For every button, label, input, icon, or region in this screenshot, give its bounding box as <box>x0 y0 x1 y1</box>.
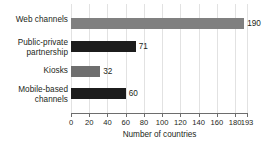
x-tick-label-180: 180 <box>229 118 242 127</box>
x-axis-line <box>71 113 248 114</box>
x-tick-160 <box>217 113 218 117</box>
x-tick-label-120: 120 <box>174 118 187 127</box>
x-tick-100 <box>162 113 163 117</box>
bar-chart: Web channels Public-private partnership … <box>0 0 265 151</box>
bar-value-label: 60 <box>129 88 138 99</box>
bar <box>71 41 136 52</box>
x-tick-label-40: 40 <box>103 118 111 127</box>
category-label-web-channels: Web channels <box>16 15 68 25</box>
bar <box>71 66 100 77</box>
x-tick-0 <box>71 113 72 117</box>
x-tick-label-100: 100 <box>156 118 169 127</box>
x-tick-label-0: 0 <box>69 118 73 127</box>
category-label-kiosks: Kiosks <box>44 66 68 76</box>
x-tick-193 <box>247 113 248 117</box>
plot-area: 190713260 <box>71 4 247 113</box>
category-label-public-private-partnership: Public-private partnership <box>18 38 68 57</box>
x-tick-label-60: 60 <box>121 118 129 127</box>
category-label-mobile-based-channels: Mobile-based channels <box>18 85 68 104</box>
bar-value-label: 71 <box>139 41 148 52</box>
x-tick-120 <box>180 113 181 117</box>
x-axis-title: Number of countries <box>71 130 248 140</box>
bar-value-label: 190 <box>247 18 261 29</box>
x-tick-label-80: 80 <box>140 118 148 127</box>
x-tick-80 <box>144 113 145 117</box>
bar-value-label: 32 <box>103 66 112 77</box>
x-tick-180 <box>235 113 236 117</box>
x-tick-label-193: 193 <box>241 118 254 127</box>
x-tick-label-160: 160 <box>211 118 224 127</box>
x-tick-40 <box>107 113 108 117</box>
x-tick-label-140: 140 <box>192 118 205 127</box>
x-tick-label-20: 20 <box>85 118 93 127</box>
x-tick-140 <box>199 113 200 117</box>
bar <box>71 88 126 99</box>
x-tick-60 <box>126 113 127 117</box>
x-tick-20 <box>89 113 90 117</box>
bar <box>71 18 244 29</box>
